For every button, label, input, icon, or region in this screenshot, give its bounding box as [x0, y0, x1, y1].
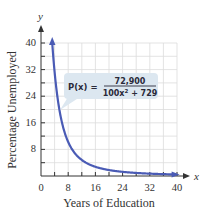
formula-lhs: P(x) = [68, 82, 98, 92]
y-tick-labels: 8 16 24 32 40 [26, 37, 37, 154]
formula-denominator: 100x2 + 729 [103, 88, 158, 98]
x-tick-label: 16 [90, 182, 101, 193]
axes [38, 25, 190, 179]
x-tick-label: 40 [172, 182, 183, 193]
y-axis-title: Percentage Unemployed [5, 51, 19, 169]
x-axis-title: Years of Education [63, 196, 154, 210]
y-tick-label: 16 [26, 117, 37, 128]
curve-start-arrow-icon [49, 37, 55, 45]
x-tick-label: 0 [38, 182, 43, 193]
formula-den-a: 100x [103, 89, 126, 98]
formula-numerator: 72,900 [115, 77, 146, 86]
y-tick-label: 24 [26, 90, 37, 101]
chart: y x 0 8 16 24 32 40 8 16 24 32 40 Years … [0, 0, 210, 216]
y-axis-letter: y [37, 10, 43, 22]
y-tick-label: 8 [31, 143, 36, 154]
curve-p-of-x [52, 43, 173, 174]
x-axis-letter: x [193, 170, 199, 182]
x-tick-labels: 0 8 16 24 32 40 [38, 182, 182, 193]
formula-den-b: + 729 [128, 89, 157, 98]
y-tick-label: 32 [26, 64, 37, 75]
y-tick-label: 40 [26, 37, 37, 48]
x-axis-arrow-icon [183, 173, 190, 179]
x-tick-label: 32 [145, 182, 156, 193]
grid [41, 43, 177, 176]
x-tick-label: 24 [117, 182, 128, 193]
x-tick-label: 8 [66, 182, 71, 193]
y-axis-arrow-icon [38, 25, 44, 32]
curve-end-arrow-icon [172, 171, 180, 177]
